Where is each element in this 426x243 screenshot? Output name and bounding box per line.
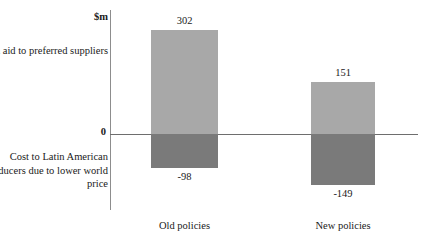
bar-segment-positive[interactable] — [151, 30, 218, 134]
bar-group-old-policies: 302 -98 Old policies — [151, 0, 218, 243]
bar-segment-negative[interactable] — [151, 134, 218, 168]
value-label-positive: 151 — [335, 67, 351, 78]
caption-positive-series: Banana aid to preferred suppliers — [0, 44, 108, 58]
value-label-negative: -149 — [333, 188, 352, 199]
bar-segment-negative[interactable] — [311, 134, 375, 185]
zero-tick-label: 0 — [101, 126, 106, 137]
caption-negative-series: Cost to Latin American producers due to … — [0, 150, 108, 191]
bar-chart: $m 0 Banana aid to preferred suppliers C… — [0, 0, 426, 243]
bar-segment-positive[interactable] — [311, 82, 375, 134]
category-label: New policies — [315, 220, 370, 231]
vertical-axis-line — [110, 10, 111, 210]
category-label: Old policies — [159, 220, 210, 231]
y-axis-unit-label: $m — [94, 11, 108, 22]
bar-group-new-policies: 151 -149 New policies — [311, 0, 375, 243]
value-label-negative: -98 — [178, 171, 192, 182]
value-label-positive: 302 — [177, 15, 193, 26]
